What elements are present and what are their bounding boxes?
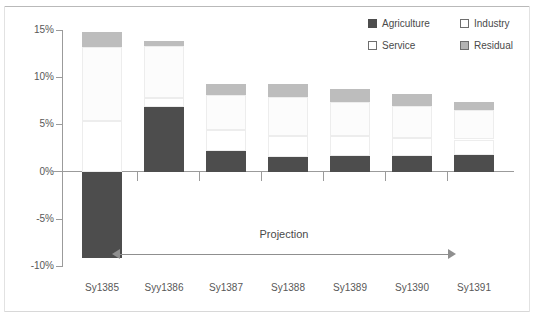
bar-segment-service[interactable] [268, 97, 308, 136]
y-axis-tick-label: 5% [40, 118, 54, 129]
bar-segment-industry[interactable] [82, 121, 122, 172]
projection-annotation: Projection [112, 228, 456, 266]
chart-figure: 15%10%5%0%-5%-10% Sy1385Syy1386Sy1387Sy1… [0, 0, 534, 315]
projection-arrow-head-right [448, 249, 456, 259]
legend-label: Residual [474, 40, 513, 51]
bar-segment-residual[interactable] [206, 84, 246, 95]
projection-label: Projection [112, 228, 456, 240]
bar-segment-agriculture[interactable] [392, 156, 432, 171]
bar-segment-agriculture[interactable] [330, 156, 370, 171]
bar-segment-service[interactable] [392, 106, 432, 138]
x-axis-label: Sy1388 [257, 282, 319, 293]
bar-segment-industry[interactable] [392, 138, 432, 157]
y-axis-tick [56, 124, 63, 125]
x-axis-tick [261, 172, 262, 181]
bar-column[interactable] [454, 30, 494, 266]
legend-swatch-icon [368, 41, 377, 50]
x-axis-tick [385, 172, 386, 181]
bar-segment-service[interactable] [144, 46, 184, 98]
y-axis-labels: 15%10%5%0%-5%-10% [0, 30, 54, 266]
bar-segment-residual[interactable] [454, 102, 494, 110]
y-axis-tick-label: 10% [34, 71, 54, 82]
y-axis-tick [56, 77, 63, 78]
bar-segment-agriculture[interactable] [144, 107, 184, 171]
legend-label: Service [382, 40, 415, 51]
bar-segment-service[interactable] [206, 95, 246, 130]
bar-segment-service[interactable] [330, 102, 370, 136]
right-border [529, 6, 530, 312]
x-axis-tick [447, 172, 448, 181]
y-axis-tick-label: -10% [31, 260, 54, 271]
bar-segment-agriculture[interactable] [206, 151, 246, 172]
y-axis-spine [62, 30, 63, 266]
x-axis-tick [323, 172, 324, 181]
x-axis-label: Syy1386 [133, 282, 195, 293]
legend-swatch-icon [368, 19, 377, 28]
bar-segment-industry[interactable] [454, 140, 494, 155]
x-axis-label: Sy1390 [381, 282, 443, 293]
bar-segment-agriculture[interactable] [454, 155, 494, 172]
legend-swatch-icon [460, 19, 469, 28]
y-axis-tick-label: 15% [34, 24, 54, 35]
bar-segment-residual[interactable] [82, 32, 122, 47]
legend-item-agriculture[interactable]: Agriculture [368, 18, 430, 29]
bar-segment-service[interactable] [82, 47, 122, 121]
bar-segment-agriculture[interactable] [268, 157, 308, 171]
bar-segment-service[interactable] [454, 110, 494, 139]
bar-segment-industry[interactable] [144, 98, 184, 107]
chart-legend: AgricultureIndustryServiceResidual [368, 18, 528, 62]
x-axis-tick [199, 172, 200, 181]
bar-segment-residual[interactable] [268, 84, 308, 97]
legend-item-residual[interactable]: Residual [460, 40, 513, 51]
legend-label: Industry [474, 18, 510, 29]
projection-arrow-head-left [112, 249, 120, 259]
legend-label: Agriculture [382, 18, 430, 29]
y-axis-tick [56, 219, 63, 220]
x-axis-tick [137, 172, 138, 181]
bar-segment-residual[interactable] [330, 89, 370, 101]
y-axis-tick [56, 266, 63, 267]
bar-segment-industry[interactable] [268, 136, 308, 158]
bar-segment-residual[interactable] [144, 41, 184, 46]
x-axis-label: Sy1387 [195, 282, 257, 293]
projection-arrow-shaft [118, 254, 450, 255]
y-axis-tick [56, 30, 63, 31]
bar-segment-residual[interactable] [392, 94, 432, 105]
top-divider [4, 6, 530, 7]
x-axis-label: Sy1389 [319, 282, 381, 293]
bar-segment-industry[interactable] [330, 136, 370, 157]
legend-swatch-icon [460, 41, 469, 50]
x-axis-label: Sy1385 [71, 282, 133, 293]
x-axis-labels: Sy1385Syy1386Sy1387Sy1388Sy1389Sy1390Sy1… [62, 282, 514, 302]
x-axis-label: Sy1391 [443, 282, 505, 293]
bottom-divider [4, 311, 530, 312]
legend-item-industry[interactable]: Industry [460, 18, 510, 29]
bar-segment-industry[interactable] [206, 130, 246, 151]
y-axis-tick-label: -5% [36, 213, 54, 224]
legend-item-service[interactable]: Service [368, 40, 415, 51]
